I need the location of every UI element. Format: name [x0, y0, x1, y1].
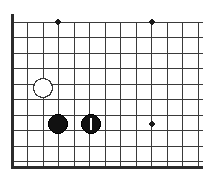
white-stone-disc[interactable]: [34, 79, 53, 98]
star-point-a-icon: [55, 19, 60, 24]
black-stone-2[interactable]: [82, 115, 101, 134]
go-board-figure: Go board corner position: [0, 0, 203, 183]
black-stone-disc[interactable]: [49, 115, 68, 134]
go-board[interactable]: [0, 0, 203, 183]
star-point-b-icon: [149, 19, 154, 24]
black-stone-1[interactable]: [49, 115, 68, 134]
board-background: [0, 0, 203, 183]
white-stone-1[interactable]: [34, 79, 53, 98]
star-point-c-icon: [149, 121, 154, 126]
